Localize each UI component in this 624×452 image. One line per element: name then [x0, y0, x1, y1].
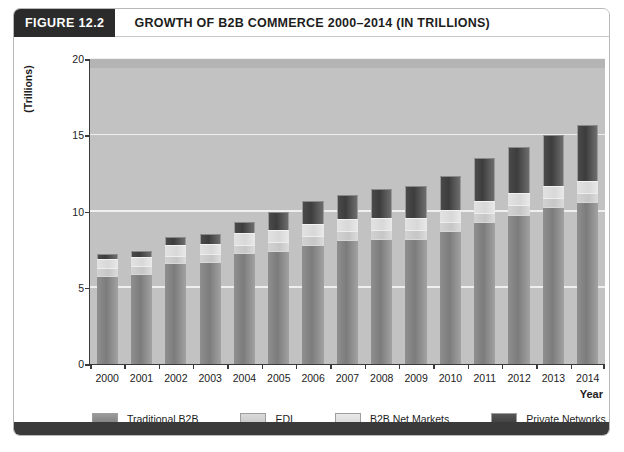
bar-segment[interactable] [508, 205, 529, 214]
y-tick-label: 10 [72, 206, 84, 218]
bar-segment[interactable] [268, 251, 289, 364]
bar-segment[interactable] [131, 266, 152, 274]
stacked-bar[interactable] [97, 254, 118, 364]
x-tick-label: 2008 [370, 372, 393, 384]
bar-segment[interactable] [508, 147, 529, 193]
bar-segment[interactable] [508, 193, 529, 205]
bar-segment[interactable] [234, 245, 255, 253]
bar-segment[interactable] [131, 257, 152, 266]
bar-segment[interactable] [577, 181, 598, 193]
bar-segment[interactable] [337, 219, 358, 231]
bar-segment[interactable] [371, 230, 392, 239]
bar-segment[interactable] [405, 218, 426, 230]
bar-segment[interactable] [474, 158, 495, 201]
bar-group[interactable]: 2001 [124, 59, 158, 364]
bar-segment[interactable] [165, 263, 186, 364]
bar-segment[interactable] [543, 207, 564, 364]
stacked-bar[interactable] [577, 125, 598, 364]
bar-segment[interactable] [234, 222, 255, 233]
bar-segment[interactable] [508, 215, 529, 364]
bar-segment[interactable] [440, 176, 461, 210]
bar-segment[interactable] [337, 240, 358, 364]
bar-segment[interactable] [577, 202, 598, 364]
bar-segment[interactable] [577, 125, 598, 181]
stacked-bar[interactable] [302, 201, 323, 364]
bar-segment[interactable] [543, 186, 564, 198]
stacked-bar[interactable] [371, 189, 392, 364]
bar-group[interactable]: 2009 [399, 59, 433, 364]
bar-segment[interactable] [268, 230, 289, 242]
bar-group[interactable]: 2013 [536, 59, 570, 364]
bar-segment[interactable] [165, 245, 186, 256]
stacked-bar[interactable] [200, 234, 221, 364]
bar-segment[interactable] [440, 210, 461, 222]
x-tick-mark [296, 364, 298, 369]
bar-segment[interactable] [440, 222, 461, 231]
bar-segment[interactable] [234, 253, 255, 364]
stacked-bar[interactable] [268, 212, 289, 364]
bar-group[interactable]: 2003 [193, 59, 227, 364]
bar-segment[interactable] [337, 231, 358, 240]
bar-segment[interactable] [97, 268, 118, 276]
bar-segment[interactable] [200, 262, 221, 364]
bar-group[interactable]: 2000 [90, 59, 124, 364]
bar-segment[interactable] [97, 259, 118, 268]
bar-segment[interactable] [405, 186, 426, 218]
stacked-bar[interactable] [508, 147, 529, 364]
bar-segment[interactable] [200, 254, 221, 262]
bar-group[interactable]: 2007 [330, 59, 364, 364]
bar-group[interactable]: 2010 [433, 59, 467, 364]
bar-segment[interactable] [302, 236, 323, 245]
bar-segment[interactable] [337, 195, 358, 219]
bar-segment[interactable] [405, 239, 426, 364]
bar-segment[interactable] [474, 222, 495, 364]
stacked-bar[interactable] [165, 237, 186, 364]
bar-segment[interactable] [543, 198, 564, 207]
stacked-bar[interactable] [405, 186, 426, 364]
stacked-bar[interactable] [234, 222, 255, 364]
stacked-bar[interactable] [543, 135, 564, 364]
bar-series-group: 2000200120022003200420052006200720082009… [90, 59, 605, 364]
bar-segment[interactable] [371, 218, 392, 230]
bar-segment[interactable] [200, 244, 221, 255]
bar-segment[interactable] [200, 234, 221, 243]
bar-segment[interactable] [543, 135, 564, 185]
bar-segment[interactable] [234, 233, 255, 245]
bar-segment[interactable] [474, 201, 495, 213]
stacked-bar[interactable] [337, 195, 358, 364]
bar-segment[interactable] [474, 213, 495, 222]
bar-group[interactable]: 2008 [365, 59, 399, 364]
bar-group[interactable]: 2011 [468, 59, 502, 364]
bar-segment[interactable] [268, 212, 289, 230]
stacked-bar[interactable] [440, 176, 461, 364]
bar-segment[interactable] [405, 230, 426, 239]
bar-segment[interactable] [131, 274, 152, 364]
bar-segment[interactable] [440, 231, 461, 364]
stacked-bar[interactable] [474, 158, 495, 364]
bar-segment[interactable] [97, 276, 118, 364]
bar-segment[interactable] [165, 237, 186, 245]
stacked-bar[interactable] [131, 251, 152, 364]
bar-segment[interactable] [371, 239, 392, 364]
x-tick-label: 2006 [301, 372, 324, 384]
bar-group[interactable]: 2014 [571, 59, 605, 364]
x-tick-label: 2004 [233, 372, 256, 384]
x-tick-mark [193, 364, 195, 369]
bar-segment[interactable] [302, 224, 323, 236]
bar-group[interactable]: 2004 [227, 59, 261, 364]
bar-group[interactable]: 2005 [262, 59, 296, 364]
x-tick-mark [227, 364, 229, 369]
bar-segment[interactable] [302, 201, 323, 224]
x-tick-label: 2007 [336, 372, 359, 384]
bar-group[interactable]: 2002 [159, 59, 193, 364]
bar-segment[interactable] [268, 242, 289, 251]
x-tick-label: 2000 [95, 372, 118, 384]
bar-segment[interactable] [577, 193, 598, 202]
bar-group[interactable]: 2012 [502, 59, 536, 364]
chart-body: (Trillions) 05101520 2000200120022003200… [14, 37, 610, 409]
y-tick-label: 0 [78, 358, 84, 370]
bar-segment[interactable] [165, 256, 186, 264]
bar-segment[interactable] [371, 189, 392, 218]
bar-group[interactable]: 2006 [296, 59, 330, 364]
bar-segment[interactable] [302, 245, 323, 364]
